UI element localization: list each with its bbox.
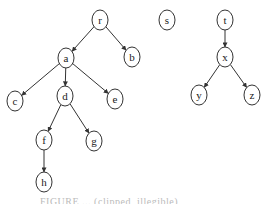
node-x: x (217, 47, 233, 67)
edge-a-c (22, 64, 60, 96)
node-label: c (13, 95, 18, 107)
node-label: g (91, 135, 97, 147)
edge-arrow (204, 65, 220, 88)
node-label: t (223, 14, 226, 26)
node-label: s (165, 14, 169, 26)
node-label: d (62, 90, 68, 102)
node-label: a (64, 52, 69, 64)
edge-arrow (72, 27, 94, 52)
edge-arrow (70, 104, 89, 133)
node-f: f (36, 130, 52, 150)
node-h: h (36, 172, 52, 192)
node-b: b (124, 47, 140, 67)
node-r: r (92, 10, 108, 30)
node-label: e (113, 93, 118, 105)
node-label: f (42, 134, 46, 146)
node-e: e (107, 89, 123, 109)
node-c: c (7, 91, 23, 111)
edge-r-a (72, 27, 94, 52)
edge-x-y (204, 65, 220, 88)
node-label: x (222, 51, 228, 63)
edge-arrow (22, 64, 60, 96)
node-label: y (196, 89, 202, 101)
edge-d-f (48, 105, 61, 132)
node-t: t (217, 10, 233, 30)
node-g: g (86, 131, 102, 151)
edge-x-z (230, 64, 246, 87)
node-a: a (58, 48, 74, 68)
node-d: d (57, 86, 73, 106)
node-label: z (250, 89, 255, 101)
node-z: z (244, 85, 260, 105)
node-label: h (41, 176, 47, 188)
edge-arrow (230, 64, 246, 87)
edge-arrow (48, 105, 61, 132)
node-label: r (98, 14, 102, 26)
edge-a-e (73, 64, 109, 94)
figure-caption: FIGURE ... (clipped, illegible) (40, 196, 230, 204)
node-s: s (159, 10, 175, 30)
node-y: y (191, 85, 207, 105)
edge-arrow (106, 27, 126, 50)
edge-arrow (73, 64, 109, 94)
edge-d-g (70, 104, 89, 133)
forest-diagram: rabcdefghstxyz (0, 0, 267, 204)
edge-r-b (106, 27, 126, 50)
node-label: b (129, 51, 135, 63)
node-layer: rabcdefghstxyz (7, 10, 260, 192)
